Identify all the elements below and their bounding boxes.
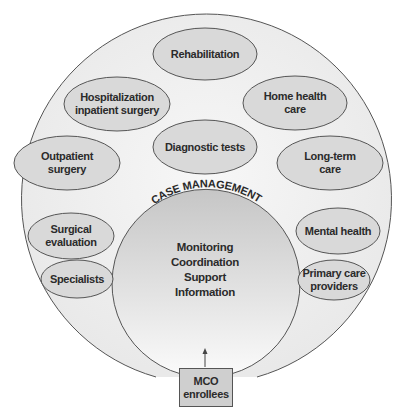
service-specialists: Specialists [50,273,104,286]
service-primary-care-providers: Primary care providers [302,267,365,293]
service-diagnostic-tests: Diagnostic tests [165,141,245,154]
mco-enrollees-box: MCO enrollees [179,368,233,407]
service-rehabilitation: Rehabilitation [171,48,240,61]
case-management-functions: Monitoring Coordination Support Informat… [171,240,239,300]
service-mental-health: Mental health [305,225,371,238]
service-surgical-evaluation: Surgical evaluation [45,223,96,249]
case-management-diagram: CASE MANAGEMENT [0,0,405,420]
service-long-term-care: Long-term care [304,150,356,176]
service-outpatient-surgery: Outpatient surgery [41,150,93,176]
service-home-health-care: Home health care [264,90,327,116]
service-hospitalization: Hospitalization inpatient surgery [75,91,159,117]
